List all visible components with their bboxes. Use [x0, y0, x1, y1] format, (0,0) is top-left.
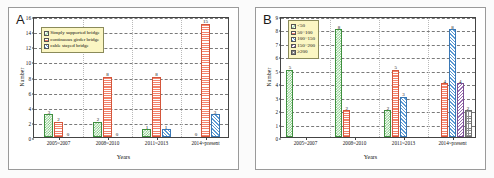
bar-value-label: 4	[443, 79, 446, 84]
panel-a: A Number 02468101214162005~20073202008~2…	[0, 0, 247, 178]
x-tick-label: 2008~2010	[96, 140, 120, 146]
y-tick-mark	[32, 63, 35, 64]
panel-b-legend: <5050~100100~150150~200≥200	[288, 20, 319, 59]
legend-item: cable stayed bridge	[44, 43, 100, 49]
bar: 5	[286, 70, 293, 137]
bar: 15	[201, 24, 210, 137]
bar: 8	[152, 77, 161, 138]
bar: 2	[93, 122, 102, 137]
y-tick-mark	[279, 125, 282, 126]
bar: 2	[384, 110, 391, 137]
y-tick-label: 5	[275, 69, 278, 75]
panel-b-letter: B	[263, 12, 272, 27]
y-tick-mark	[279, 71, 282, 72]
legend-label: 100~150	[297, 36, 315, 42]
legend-item: Simply supported bridge	[44, 30, 100, 36]
y-tick-label: 10	[26, 60, 31, 66]
x-tick-label: 2005~2007	[47, 140, 71, 146]
y-tick-label: 1	[275, 123, 278, 129]
bar-value-label: 0	[195, 132, 198, 137]
bar-value-label: 3	[48, 110, 51, 115]
panel-b: B Number 01234567892005~200752008~201082…	[247, 0, 494, 178]
y-tick-label: 7	[275, 42, 278, 48]
y-tick-label: 2	[275, 109, 278, 115]
y-tick-mark	[32, 123, 35, 124]
bar: 4	[441, 83, 448, 137]
legend-item: continuous girder bridge	[44, 37, 100, 43]
bar: 2	[54, 122, 63, 137]
y-tick-label: 6	[275, 55, 278, 61]
legend-label: 50~100	[297, 30, 312, 36]
bar: 5	[392, 70, 399, 137]
legend-swatch	[291, 50, 296, 55]
gridline	[34, 124, 228, 125]
y-tick-label: 4	[28, 106, 31, 112]
y-tick-mark	[32, 33, 35, 34]
y-tick-label: 0	[28, 136, 31, 142]
x-tick-label: 2014~present	[438, 140, 466, 146]
bar-value-label: 0	[67, 132, 70, 137]
panel-a-letter: A	[16, 12, 25, 27]
panel-a-ylabel: Number	[19, 62, 25, 92]
bar-value-label: 2	[97, 117, 100, 122]
x-tick-label: 2011~2013	[145, 140, 168, 146]
category-separator	[330, 18, 331, 137]
bar: 8	[103, 77, 112, 138]
bar-value-label: 8	[451, 25, 454, 30]
bar-value-label: 4	[459, 79, 462, 84]
y-tick-mark	[32, 93, 35, 94]
bar: 4	[457, 83, 464, 137]
x-tick-label: 2005~2007	[294, 140, 318, 146]
legend-swatch	[291, 24, 296, 29]
gridline	[34, 79, 228, 80]
legend-item: 150~200	[291, 43, 315, 49]
legend-item: 100~150	[291, 36, 315, 42]
y-tick-mark	[32, 78, 35, 79]
gridline	[281, 72, 475, 73]
legend-swatch	[291, 37, 296, 42]
bar-value-label: 2	[57, 117, 60, 122]
category-separator	[428, 18, 429, 137]
panel-b-xlabel: Years	[247, 154, 494, 160]
y-tick-label: 0	[275, 136, 278, 142]
y-tick-label: 14	[26, 30, 31, 36]
y-tick-label: 16	[26, 15, 31, 21]
y-tick-label: 4	[275, 82, 278, 88]
legend-label: ≥200	[297, 49, 307, 55]
gridline	[34, 18, 228, 19]
legend-swatch	[291, 44, 296, 49]
legend-item: ≥200	[291, 49, 315, 55]
legend-swatch	[44, 31, 49, 36]
y-tick-label: 9	[275, 15, 278, 21]
legend-label: continuous girder bridge	[50, 37, 99, 43]
y-tick-mark	[32, 48, 35, 49]
legend-label: 150~200	[297, 43, 315, 49]
x-tick-label: 2008~2010	[343, 140, 367, 146]
y-tick-label: 6	[28, 91, 31, 97]
figure-container: A Number 02468101214162005~20073202008~2…	[0, 0, 494, 178]
legend-swatch	[44, 44, 49, 49]
gridline	[34, 94, 228, 95]
bar: 2	[465, 110, 472, 137]
bar-value-label: 15	[203, 19, 208, 24]
bar-value-label: 2	[467, 106, 470, 111]
bar: 1	[162, 129, 171, 137]
bar: 1	[142, 129, 151, 137]
y-tick-mark	[279, 44, 282, 45]
legend-item: <50	[291, 23, 315, 29]
bar-value-label: 5	[394, 65, 397, 70]
y-tick-mark	[32, 18, 35, 19]
panel-b-ylabel: Number	[266, 62, 272, 92]
y-tick-mark	[279, 139, 282, 140]
y-tick-mark	[279, 31, 282, 32]
bar-value-label: 2	[345, 106, 348, 111]
gridline	[34, 109, 228, 110]
x-tick-label: 2014~present	[191, 140, 219, 146]
bar: 2	[343, 110, 350, 137]
bar: 3	[211, 114, 220, 137]
bar-value-label: 1	[146, 125, 149, 130]
panel-a-xlabel: Years	[0, 154, 247, 160]
y-tick-mark	[279, 85, 282, 86]
bar-value-label: 0	[116, 132, 119, 137]
y-tick-label: 8	[28, 76, 31, 82]
